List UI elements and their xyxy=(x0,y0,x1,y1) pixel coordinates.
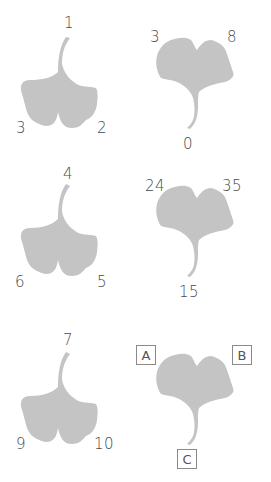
leaf-2-stem-label: 0 xyxy=(183,137,193,152)
leaf-3-right-label: 5 xyxy=(97,275,107,290)
leaf-1-right-label: 2 xyxy=(97,121,107,136)
ginkgo-leaf-3 xyxy=(0,160,135,320)
leaf-4-left-label: 24 xyxy=(145,179,165,194)
leaf-6-right-box: B xyxy=(232,345,252,365)
leaf-5-stem-label: 7 xyxy=(63,333,73,348)
leaf-2-left-label: 3 xyxy=(150,30,160,45)
leaf-3-stem-label: 4 xyxy=(63,167,73,182)
leaf-1-stem-label: 1 xyxy=(64,16,74,31)
leaf-1-left-label: 3 xyxy=(16,121,26,136)
leaf-6-stem-box: C xyxy=(177,449,197,469)
leaf-4-right-label: 35 xyxy=(222,179,242,194)
leaf-6-left-box: A xyxy=(136,345,156,365)
leaf-2-right-label: 8 xyxy=(227,30,237,45)
leaf-5-right-label: 10 xyxy=(94,437,114,452)
ginkgo-leaf-2 xyxy=(135,0,271,160)
leaf-5-left-label: 9 xyxy=(16,437,26,452)
leaf-3-left-label: 6 xyxy=(15,275,25,290)
leaf-4-stem-label: 15 xyxy=(179,285,199,300)
